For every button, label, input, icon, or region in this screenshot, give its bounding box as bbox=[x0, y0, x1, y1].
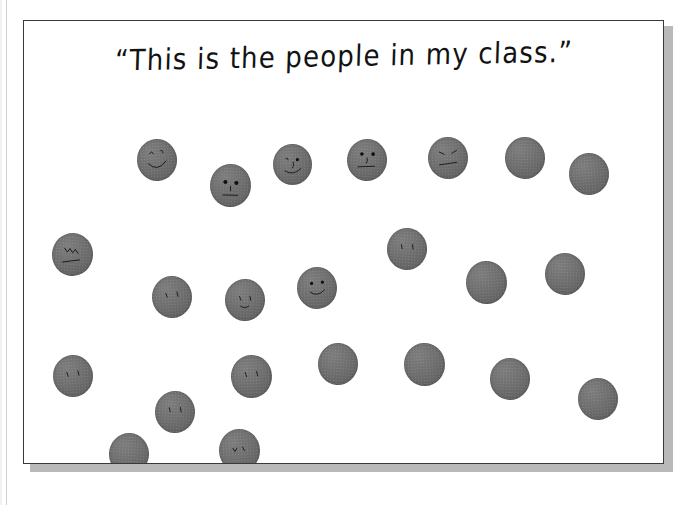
blank-dot bbox=[544, 252, 585, 295]
face-dot-sticker bbox=[52, 354, 95, 399]
two-tick-eyes-icon bbox=[151, 275, 193, 319]
eyes-smile-icon bbox=[296, 266, 337, 309]
face-dot-sticker bbox=[345, 137, 389, 182]
framed-worksheet: “This is the people in my class.” bbox=[23, 20, 664, 464]
smile-closed-eyes-icon bbox=[136, 138, 179, 183]
blank-dot bbox=[317, 342, 360, 387]
scribble-brows-slash-mouth-icon bbox=[51, 232, 95, 278]
two-tick-eyes-icon bbox=[230, 354, 272, 398]
two-tick-eyes-icon bbox=[154, 390, 196, 434]
face-dot-sticker bbox=[296, 266, 337, 309]
face-dot-sticker bbox=[151, 275, 193, 319]
two-tick-eyes-icon bbox=[386, 227, 429, 272]
tick-eyes-small-mouth-icon bbox=[224, 278, 266, 322]
eyes-nose-smile-icon bbox=[272, 143, 312, 185]
scanned-page: “This is the people in my class.” bbox=[0, 0, 685, 505]
page-edge-line bbox=[6, 0, 7, 505]
face-dot-sticker bbox=[51, 232, 95, 278]
face-dot-sticker bbox=[427, 136, 469, 180]
face-dot-sticker bbox=[209, 163, 252, 208]
round-eyes-nose-line-mouth-icon bbox=[209, 163, 252, 208]
two-tick-eyes-icon bbox=[52, 354, 95, 399]
page-left-margin bbox=[0, 0, 2, 505]
face-dot-sticker bbox=[218, 428, 261, 464]
blank-dot bbox=[489, 357, 530, 400]
angled-brows-flat-mouth-icon bbox=[427, 136, 469, 180]
face-dot-sticker bbox=[272, 143, 312, 185]
eyes-nose-flat-mouth-icon bbox=[345, 137, 389, 182]
blank-dot bbox=[504, 136, 545, 179]
blank-dot bbox=[465, 260, 508, 305]
brow-squiggle-icon bbox=[218, 428, 261, 464]
face-dot-sticker bbox=[136, 138, 179, 183]
blank-dot bbox=[403, 342, 446, 387]
face-dot-sticker bbox=[224, 278, 266, 322]
blank-dot bbox=[568, 152, 611, 197]
blank-dot bbox=[577, 377, 620, 422]
face-dot-sticker bbox=[386, 227, 429, 272]
face-dot-sticker bbox=[154, 390, 196, 434]
face-dot-sticker bbox=[230, 354, 272, 398]
dot-field bbox=[24, 21, 664, 464]
blank-dot bbox=[108, 432, 150, 464]
